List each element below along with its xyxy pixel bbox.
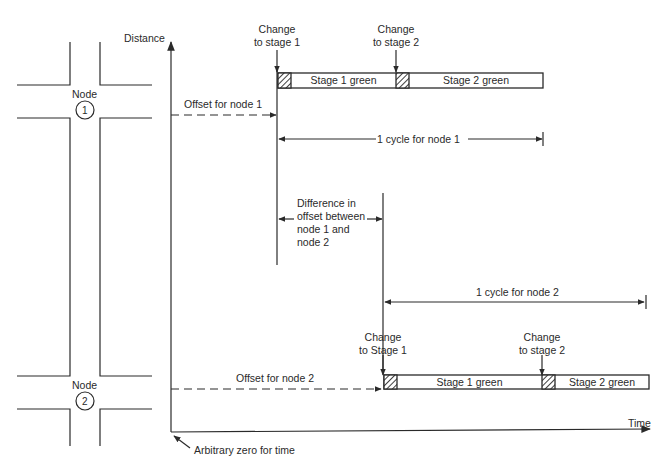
origin-pointer [174,436,190,448]
node-1-number: 1 [82,104,88,117]
node-1-stage-1-green: Stage 1 green [291,74,396,87]
node-2-label: Node [72,379,97,392]
node-2-number: 2 [82,395,88,408]
node-2-change-stage-1-label: Change to Stage 1 [353,331,413,357]
intersection-node-2 [17,409,152,446]
distance-axis-label: Distance [124,32,165,45]
node-1-change-stage-1-label: Change to stage 1 [247,23,307,49]
offset-node-1-label: Offset for node 1 [184,98,262,111]
node-2-stage-1-green: Stage 1 green [397,376,542,389]
time-axis-label: Time [628,417,651,430]
offset-diagram: Distance Time Arbitrary zero for time No… [0,0,665,467]
node-2-stage-2-green: Stage 2 green [555,376,649,389]
offset-node-2-label: Offset for node 2 [236,372,314,385]
node-1-label: Node [72,88,97,101]
offset-difference-label: Difference in offset between node 1 and … [297,197,365,249]
cycle-node-2-label: 1 cycle for node 2 [476,286,559,299]
time-axis [171,429,650,432]
cycle-node-1-label: 1 cycle for node 1 [377,133,460,146]
node-1-change-stage-2-label: Change to stage 2 [366,23,426,49]
node-2-change-stage-2-label: Change to stage 2 [512,331,572,357]
node-1-stage-2-green: Stage 2 green [409,74,543,87]
